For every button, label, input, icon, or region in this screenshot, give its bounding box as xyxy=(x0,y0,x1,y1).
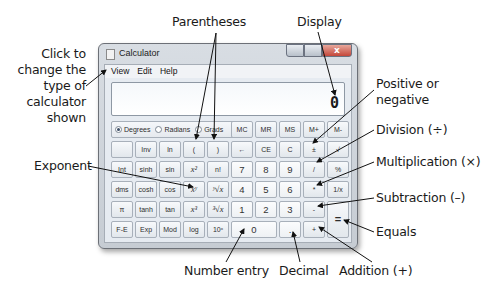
clear-button[interactable]: C xyxy=(279,141,301,158)
calculator-app-icon xyxy=(106,49,115,60)
annotation-sign: Positive or negative xyxy=(376,76,439,108)
open-paren-button[interactable]: ( xyxy=(183,141,205,158)
sinh-button[interactable]: sinh xyxy=(135,161,157,178)
sign-toggle-button[interactable]: ± xyxy=(303,141,325,158)
backspace-button[interactable]: ← xyxy=(231,141,253,158)
inverse-button[interactable]: Inv xyxy=(135,141,157,158)
radio-unselected-icon xyxy=(155,126,162,133)
power-button[interactable]: xʸ xyxy=(183,181,205,198)
add-button[interactable]: + xyxy=(303,221,325,238)
clear-entry-button[interactable]: CE xyxy=(255,141,277,158)
digit-8-button[interactable]: 8 xyxy=(255,161,277,178)
window-controls: x xyxy=(286,44,352,58)
annotation-line: Positive or xyxy=(376,76,439,92)
annotation-line: Click to xyxy=(2,46,86,62)
close-button[interactable]: x xyxy=(322,44,352,57)
factorial-button[interactable]: n! xyxy=(207,161,229,178)
annotation-addition: Addition (+) xyxy=(339,263,412,279)
maximize-button[interactable] xyxy=(304,44,322,57)
radio-label: Degrees xyxy=(124,126,150,133)
display: 0 xyxy=(111,82,345,116)
annotation-subtraction: Subtraction (–) xyxy=(376,190,465,206)
cos-button[interactable]: cos xyxy=(159,181,181,198)
annotation-line: negative xyxy=(376,92,439,108)
digit-7-button[interactable]: 7 xyxy=(231,161,253,178)
annotation-decimal: Decimal xyxy=(279,263,329,279)
radio-degrees[interactable]: Degrees xyxy=(115,126,150,133)
digit-0-button[interactable]: 0 xyxy=(231,221,277,238)
equals-button[interactable]: = xyxy=(327,201,349,238)
square-root-button[interactable]: √ xyxy=(327,141,349,158)
calculator-window: Calculator x View Edit Help 0 Degrees Ra… xyxy=(98,43,358,249)
subtract-button[interactable]: - xyxy=(303,201,325,218)
log-button[interactable]: log xyxy=(183,221,205,238)
radio-selected-icon xyxy=(115,126,122,133)
multiply-button[interactable]: * xyxy=(303,181,325,198)
annotation-number-entry: Number entry xyxy=(184,263,269,279)
annotation-equals: Equals xyxy=(376,224,416,240)
divide-button[interactable]: / xyxy=(303,161,325,178)
pi-button[interactable]: π xyxy=(111,201,133,218)
annotation-display: Display xyxy=(297,14,342,30)
window-title: Calculator xyxy=(119,48,160,58)
fixed-exponent-button[interactable]: F-E xyxy=(111,221,133,238)
annotation-parentheses: Parentheses xyxy=(172,14,246,30)
square-button[interactable]: x² xyxy=(183,161,205,178)
menu-help[interactable]: Help xyxy=(157,65,182,78)
annotation-line: change the xyxy=(2,62,86,78)
y-root-button[interactable]: ʸ√x xyxy=(207,181,229,198)
annotation-line: shown xyxy=(2,110,86,126)
menu-view[interactable]: View xyxy=(108,65,134,78)
annotation-division: Division (÷) xyxy=(376,122,447,138)
memory-subtract-button[interactable]: M- xyxy=(327,121,349,138)
reciprocal-button[interactable]: 1/x xyxy=(327,181,349,198)
natural-log-button[interactable]: ln xyxy=(159,141,181,158)
title-bar[interactable]: Calculator x xyxy=(99,44,357,64)
memory-clear-button[interactable]: MC xyxy=(231,121,253,138)
menu-edit[interactable]: Edit xyxy=(134,65,157,78)
digit-2-button[interactable]: 2 xyxy=(255,201,277,218)
mod-button[interactable]: Mod xyxy=(159,221,181,238)
digit-1-button[interactable]: 1 xyxy=(231,201,253,218)
radio-unselected-icon xyxy=(195,126,202,133)
ten-power-button[interactable]: 10ˣ xyxy=(207,221,229,238)
exp-button[interactable]: Exp xyxy=(135,221,157,238)
dms-button[interactable]: dms xyxy=(111,181,133,198)
tan-button[interactable]: tan xyxy=(159,201,181,218)
close-paren-button[interactable]: ) xyxy=(207,141,229,158)
angle-mode-group: Degrees Radians Grads xyxy=(111,121,241,138)
digit-5-button[interactable]: 5 xyxy=(255,181,277,198)
display-value: 0 xyxy=(330,94,339,112)
cube-root-button[interactable]: ³√x xyxy=(207,201,229,218)
annotation-multiplication: Multiplication (×) xyxy=(376,154,481,170)
digit-6-button[interactable]: 6 xyxy=(279,181,301,198)
calculator-body: View Edit Help 0 Degrees Radians Grads M… xyxy=(104,64,352,243)
annotation-line: type of xyxy=(2,78,86,94)
annotation-view-menu: Click to change the type of calculator s… xyxy=(2,46,86,126)
memory-recall-button[interactable]: MR xyxy=(255,121,277,138)
cosh-button[interactable]: cosh xyxy=(135,181,157,198)
memory-add-button[interactable]: M+ xyxy=(303,121,325,138)
decimal-button[interactable]: . xyxy=(279,221,301,238)
sin-button[interactable]: sin xyxy=(159,161,181,178)
radio-grads[interactable]: Grads xyxy=(195,126,223,133)
annotation-line: calculator xyxy=(2,94,86,110)
radio-label: Radians xyxy=(164,126,190,133)
tanh-button[interactable]: tanh xyxy=(135,201,157,218)
radio-label: Grads xyxy=(204,126,223,133)
digit-4-button[interactable]: 4 xyxy=(231,181,253,198)
digit-3-button[interactable]: 3 xyxy=(279,201,301,218)
blank-button[interactable] xyxy=(111,141,133,158)
integer-button[interactable]: Int xyxy=(111,161,133,178)
cube-button[interactable]: x³ xyxy=(183,201,205,218)
minimize-button[interactable] xyxy=(286,44,304,57)
digit-9-button[interactable]: 9 xyxy=(279,161,301,178)
annotation-exponent: Exponent xyxy=(34,158,92,174)
radio-radians[interactable]: Radians xyxy=(155,126,190,133)
memory-store-button[interactable]: MS xyxy=(279,121,301,138)
percent-button[interactable]: % xyxy=(327,161,349,178)
menu-bar: View Edit Help xyxy=(105,65,351,78)
